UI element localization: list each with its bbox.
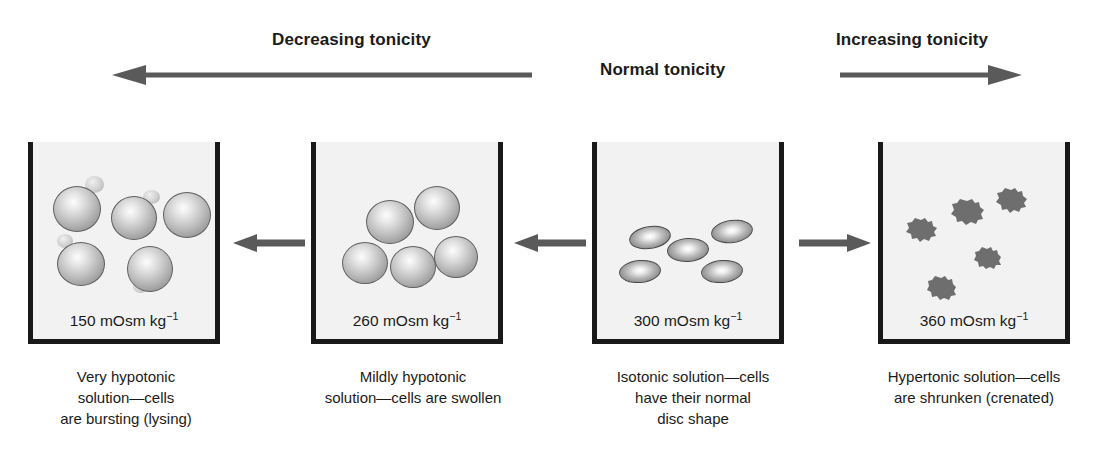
concentration-label-hypertonic: 360 mOsm kg−1 bbox=[883, 312, 1065, 330]
blood-cell-bursting bbox=[57, 242, 105, 286]
normal-tonicity-label: Normal tonicity bbox=[600, 60, 725, 80]
caption-line: solution—cells bbox=[8, 387, 244, 408]
tonicity-diagram: Decreasing tonicity Normal tonicity Incr… bbox=[0, 0, 1114, 456]
caption-line: Mildly hypotonic bbox=[268, 366, 558, 387]
blood-cell-crenated bbox=[996, 188, 1027, 213]
concentration-label-very-hypotonic: 150 mOsm kg−1 bbox=[33, 312, 215, 330]
decreasing-tonicity-label: Decreasing tonicity bbox=[272, 30, 431, 50]
cell-field-hypertonic bbox=[883, 142, 1065, 339]
increasing-tonicity-arrow-icon bbox=[840, 62, 1022, 88]
concentration-label-mildly-hypotonic: 260 mOsm kg−1 bbox=[316, 312, 498, 330]
blood-cell-disc bbox=[618, 258, 662, 285]
concentration-label-isotonic: 300 mOsm kg−1 bbox=[597, 312, 779, 330]
blood-cell-disc bbox=[700, 258, 744, 285]
connector-arrow-right-icon bbox=[799, 232, 871, 254]
cell-field-isotonic bbox=[597, 142, 779, 339]
blood-cell-swollen bbox=[414, 186, 460, 230]
caption-line: are shrunken (crenated) bbox=[843, 387, 1105, 408]
connector-arrow-left-icon bbox=[514, 232, 586, 254]
blood-cell-swollen bbox=[434, 236, 478, 278]
blood-cell-bursting bbox=[53, 186, 101, 232]
blood-cell-disc bbox=[627, 223, 672, 252]
increasing-tonicity-label: Increasing tonicity bbox=[836, 30, 988, 50]
caption-line: have their normal bbox=[568, 387, 818, 408]
blood-cell-swollen bbox=[390, 246, 436, 288]
connector-arrow-left-icon bbox=[233, 232, 305, 254]
caption-very-hypotonic: Very hypotonic solution—cells are bursti… bbox=[8, 366, 244, 429]
decreasing-tonicity-arrow-icon bbox=[112, 62, 532, 88]
caption-isotonic: Isotonic solution—cells have their norma… bbox=[568, 366, 818, 429]
caption-line: Very hypotonic bbox=[8, 366, 244, 387]
cell-field-mildly-hypotonic bbox=[316, 142, 498, 339]
blood-cell-crenated bbox=[974, 247, 1001, 269]
caption-mildly-hypotonic: Mildly hypotonic solution—cells are swol… bbox=[268, 366, 558, 408]
beaker-mildly-hypotonic: 260 mOsm kg−1 bbox=[311, 142, 503, 344]
blood-cell-disc bbox=[666, 237, 710, 264]
beaker-very-hypotonic: 150 mOsm kg−1 bbox=[28, 142, 220, 344]
blood-cell-bursting bbox=[127, 246, 173, 292]
blood-cell-bursting bbox=[163, 192, 211, 238]
blood-cell-disc bbox=[710, 217, 755, 246]
caption-line: are bursting (lysing) bbox=[8, 408, 244, 429]
blood-cell-crenated bbox=[927, 276, 956, 300]
blood-cell-swollen bbox=[366, 200, 414, 244]
cell-field-very-hypotonic bbox=[33, 142, 215, 339]
caption-line: Isotonic solution—cells bbox=[568, 366, 818, 387]
caption-line: Hypertonic solution—cells bbox=[843, 366, 1105, 387]
blood-cell-crenated bbox=[951, 199, 984, 225]
blood-cell-bursting bbox=[111, 196, 157, 240]
blood-cell-swollen bbox=[342, 242, 388, 284]
caption-hypertonic: Hypertonic solution—cells are shrunken (… bbox=[843, 366, 1105, 408]
caption-line: solution—cells are swollen bbox=[268, 387, 558, 408]
blood-cell-crenated bbox=[906, 218, 937, 242]
beaker-hypertonic: 360 mOsm kg−1 bbox=[878, 142, 1070, 344]
beaker-isotonic: 300 mOsm kg−1 bbox=[592, 142, 784, 344]
caption-line: disc shape bbox=[568, 408, 818, 429]
